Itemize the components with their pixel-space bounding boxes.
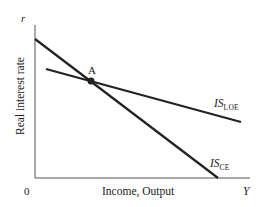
is-loe-label: ISLOE <box>214 97 239 112</box>
y-axis-symbol: r <box>21 12 25 24</box>
x-axis-symbol: Y <box>243 185 249 197</box>
is-ce-label: ISCE <box>210 157 230 172</box>
is-loe-curve <box>46 69 241 122</box>
origin-label: 0 <box>24 185 30 197</box>
is-ce-label-main: IS <box>210 157 220 169</box>
is-ce-label-sub: CE <box>220 163 230 172</box>
is-loe-label-main: IS <box>214 97 224 109</box>
is-loe-label-sub: LOE <box>224 103 239 112</box>
point-a-marker <box>88 78 95 85</box>
x-axis-label: Income, Output <box>102 185 174 197</box>
point-a-label: A <box>88 64 96 76</box>
y-axis-label: Real interest rate <box>14 53 26 139</box>
